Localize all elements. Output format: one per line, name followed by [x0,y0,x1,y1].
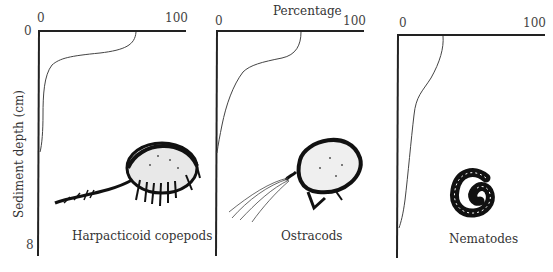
nematode-drawing [454,173,490,213]
panel-3-caption: Nematodes [449,232,518,246]
panel-3-axes [397,34,545,258]
panel-2-caption: Ostracods [281,229,343,243]
panel-1-caption: Harpacticoid copepods [72,229,212,243]
panel-3-curve [399,36,443,228]
panel-2-curve [217,32,301,153]
panel-1-curve [40,32,136,152]
copepod-drawing [55,143,200,206]
ostracod-drawing [229,140,361,222]
antenna-setae-icon [229,178,289,222]
